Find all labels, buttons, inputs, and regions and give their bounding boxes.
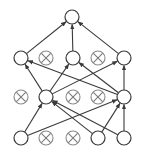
neuron-node bbox=[14, 51, 28, 65]
neuron-circle bbox=[117, 90, 131, 104]
neuron-node bbox=[39, 90, 53, 104]
edges-layer bbox=[25, 22, 124, 136]
edge-h2e-to-out bbox=[78, 22, 119, 54]
neuron-circle bbox=[65, 10, 79, 24]
neuron-circle bbox=[14, 131, 28, 145]
neuron-node bbox=[91, 131, 105, 145]
edge-h1b-to-h2a bbox=[25, 64, 42, 91]
edge-h2c-to-out bbox=[72, 24, 73, 51]
neuron-node bbox=[65, 10, 79, 24]
neuron-circle bbox=[91, 131, 105, 145]
dropped-neuron-icon bbox=[91, 51, 105, 65]
dropped-neuron-icon bbox=[39, 51, 53, 65]
neuron-circle bbox=[39, 90, 53, 104]
dropped-neuron-icon bbox=[14, 90, 28, 104]
neuron-circle bbox=[117, 51, 131, 65]
dropped-neuron-icon bbox=[39, 131, 53, 145]
neuron-node bbox=[117, 90, 131, 104]
neuron-node bbox=[117, 51, 131, 65]
neuron-circle bbox=[117, 131, 131, 145]
neuron-node bbox=[14, 131, 28, 145]
neuron-circle bbox=[14, 51, 28, 65]
dropout-network-diagram bbox=[0, 0, 143, 157]
neuron-node bbox=[66, 51, 80, 65]
dropped-neuron-icon bbox=[66, 131, 80, 145]
edge-in1-to-h1b bbox=[25, 103, 42, 132]
dropped-neuron-icon bbox=[91, 90, 105, 104]
neuron-circle bbox=[66, 51, 80, 65]
dropped-neuron-icon bbox=[66, 90, 80, 104]
neuron-node bbox=[117, 131, 131, 145]
edge-in4-to-h1e bbox=[102, 103, 120, 132]
edge-h2a-to-out bbox=[26, 22, 66, 54]
edge-in5-to-h1b bbox=[53, 100, 118, 134]
edge-h1b-to-h2e bbox=[52, 61, 117, 94]
